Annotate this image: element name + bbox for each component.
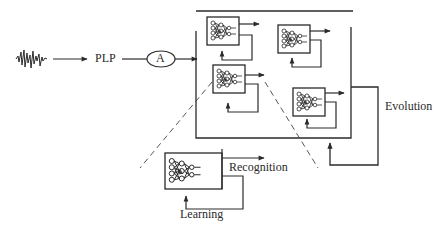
network-3 bbox=[213, 65, 264, 112]
learning-label: Learning bbox=[180, 207, 223, 222]
diagram-canvas bbox=[0, 0, 445, 236]
network-enlarged bbox=[165, 149, 264, 209]
node-a-label: A bbox=[156, 51, 165, 66]
network-4 bbox=[293, 88, 344, 128]
network-1 bbox=[207, 17, 259, 60]
plp-label: PLP bbox=[95, 51, 116, 66]
waveform-icon bbox=[16, 50, 47, 68]
network-2 bbox=[278, 25, 330, 67]
recognition-label: Recognition bbox=[229, 160, 288, 175]
evolution-label: Evolution bbox=[385, 99, 432, 114]
